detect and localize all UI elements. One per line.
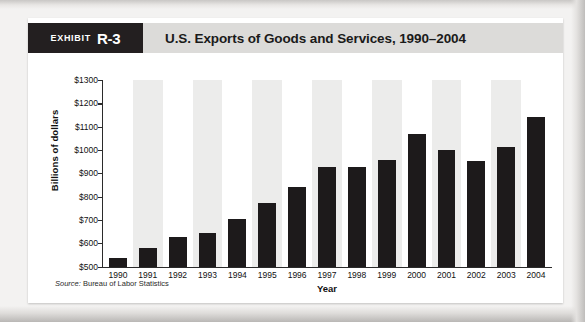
x-tick-label: 1999: [372, 270, 402, 280]
bar-1990: [109, 258, 127, 267]
y-tick-mark: [98, 267, 103, 268]
x-tick-label: 2002: [461, 270, 491, 280]
x-tick-label: 2000: [402, 270, 432, 280]
y-tick-mark: [98, 127, 103, 128]
y-tick-mark: [98, 243, 103, 244]
x-tick-label: 2004: [521, 270, 551, 280]
bar-1995: [258, 203, 276, 267]
exhibit-title: U.S. Exports of Goods and Services, 1990…: [143, 23, 563, 53]
bar-1992: [169, 237, 187, 267]
chart-region: Billions of dollars $1300$1200$1100$1000…: [28, 53, 563, 303]
bar-1991: [139, 248, 157, 267]
x-tick-label: 2003: [491, 270, 521, 280]
bar-1996: [288, 187, 306, 267]
bar-1993: [199, 233, 217, 267]
bar-2004: [527, 117, 545, 267]
x-tick-label: 1997: [312, 270, 342, 280]
x-tick-label: 1994: [222, 270, 252, 280]
y-tick-label: $800: [54, 192, 98, 202]
exhibit-badge-word: Exhibit: [51, 33, 91, 43]
source-note: Source: Bureau of Labor Statistics: [55, 279, 169, 288]
bar-1999: [378, 160, 396, 267]
x-tick-label: 1996: [282, 270, 312, 280]
y-tick-mark: [98, 220, 103, 221]
y-tick-label: $1100: [54, 122, 98, 132]
y-tick-label: $1000: [54, 145, 98, 155]
scan-shadow-top: [0, 0, 585, 9]
x-tick-label: 2001: [432, 270, 462, 280]
y-tick-mark: [98, 197, 103, 198]
bar-2001: [438, 150, 456, 267]
bar-2000: [408, 134, 426, 267]
y-tick-label: $900: [54, 168, 98, 178]
scan-shadow-right: [571, 0, 585, 322]
x-axis-title: Year: [102, 283, 552, 294]
exhibit-header: Exhibit R-3 U.S. Exports of Goods and Se…: [28, 23, 563, 53]
bar-1998: [348, 167, 366, 267]
y-tick-mark: [98, 173, 103, 174]
y-tick-label: $500: [54, 262, 98, 272]
y-tick-label: $700: [54, 215, 98, 225]
source-text: Bureau of Labor Statistics: [83, 279, 169, 288]
bar-2002: [467, 161, 485, 267]
exhibit-badge: Exhibit R-3: [28, 23, 143, 53]
x-tick-label: 1993: [193, 270, 223, 280]
x-tick-label: 1995: [252, 270, 282, 280]
source-label: Source:: [55, 279, 81, 288]
y-axis-tick-labels: $1300$1200$1100$1000$900$800$700$600$500: [54, 53, 98, 303]
y-tick-label: $1300: [54, 75, 98, 85]
bar-1997: [318, 167, 336, 267]
scan-shadow-bottom: [0, 306, 585, 322]
exhibit-card: Exhibit R-3 U.S. Exports of Goods and Se…: [28, 18, 563, 303]
y-tick-label: $600: [54, 238, 98, 248]
bar-series: [103, 53, 552, 267]
y-tick-mark: [98, 103, 103, 104]
bar-1994: [228, 219, 246, 267]
y-tick-mark: [98, 80, 103, 81]
x-tick-label: 1998: [342, 270, 372, 280]
bar-2003: [497, 147, 515, 267]
y-tick-mark: [98, 150, 103, 151]
exhibit-badge-number: R-3: [97, 30, 121, 47]
plot-area: 1990199119921993199419951996199719981999…: [102, 53, 552, 303]
x-axis-tick-labels: 1990199119921993199419951996199719981999…: [103, 270, 552, 284]
y-tick-label: $1200: [54, 98, 98, 108]
